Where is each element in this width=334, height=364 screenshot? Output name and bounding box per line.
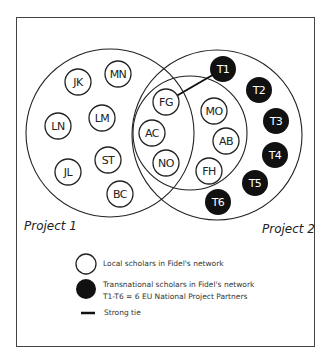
legend-open-circle-icon [76, 254, 96, 274]
legend-local-label: Local scholars in Fidel's network [103, 258, 224, 270]
legend-symbols [0, 0, 334, 364]
legend-transnational-label: Transnational scholars in Fidel's networ… [103, 279, 254, 291]
legend-partners-label: T1-T6 = 6 EU National Project Partners [103, 291, 247, 303]
legend-filled-circle-icon [76, 279, 96, 299]
legend-strong-tie-label: Strong tie [104, 307, 141, 319]
